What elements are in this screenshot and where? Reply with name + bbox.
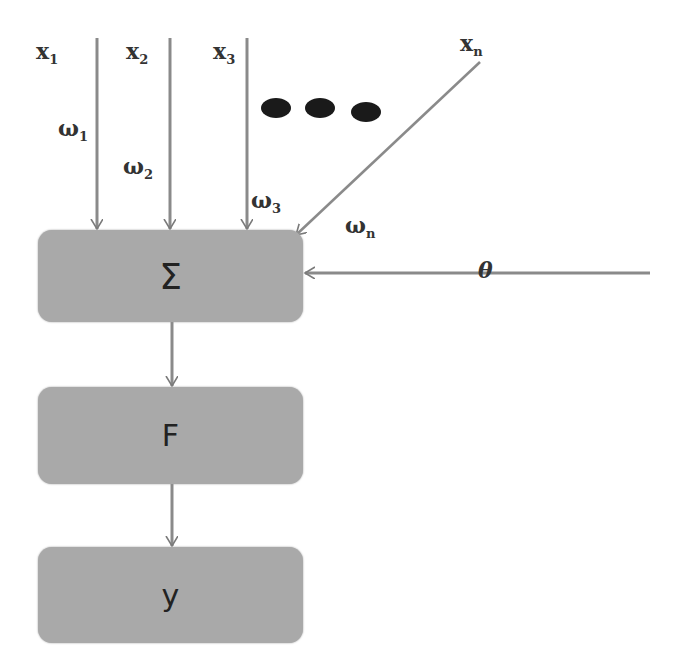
weight-label-w3: ω3 — [251, 187, 281, 216]
sum-symbol: Σ — [159, 256, 182, 297]
input-label-xn: xn — [460, 30, 483, 59]
weight-label-w1: ω1 — [58, 115, 88, 144]
weight-label-w2: ω2 — [123, 153, 153, 182]
bias-label: θ — [478, 257, 493, 283]
activation-node: F — [38, 387, 303, 484]
output-node: y — [38, 547, 303, 643]
input-label-x2: x2 — [126, 38, 148, 67]
input-arrow-n — [296, 62, 480, 235]
activation-label: F — [162, 418, 179, 453]
input-label-x3: x3 — [213, 38, 235, 67]
input-label-x1: x1 — [36, 38, 58, 67]
neuron-diagram: x1 x2 x3 xn ω1 ω2 ω3 ωn θ Σ F y — [0, 0, 683, 662]
ellipsis-dot-1 — [261, 98, 291, 118]
ellipsis-dot-2 — [305, 98, 335, 118]
sum-node: Σ — [38, 230, 303, 322]
weight-label-wn: ωn — [345, 212, 375, 241]
ellipsis-dot-3 — [351, 102, 381, 122]
output-label: y — [162, 578, 180, 613]
